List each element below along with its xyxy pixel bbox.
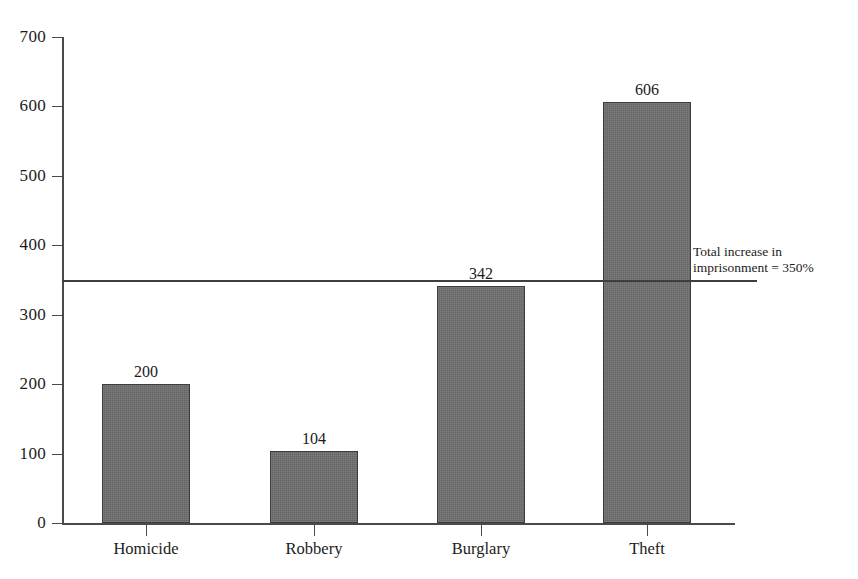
x-axis-line: [62, 523, 735, 525]
y-tick-label: 600: [0, 97, 46, 114]
bar-value-label: 606: [587, 82, 707, 98]
y-tick-label: 700: [0, 28, 46, 45]
y-tick-mark: [52, 245, 62, 246]
y-tick-mark: [52, 106, 62, 107]
bar-value-label: 200: [86, 364, 206, 380]
y-tick-label: 0: [0, 514, 46, 531]
reference-line-total-increase: [62, 280, 757, 282]
y-tick-label: 100: [0, 445, 46, 462]
bar-value-label: 104: [254, 431, 374, 447]
x-tick-mark: [146, 525, 147, 536]
y-tick-mark: [52, 523, 62, 524]
x-tick-mark: [647, 525, 648, 536]
y-tick-label: 200: [0, 375, 46, 392]
reference-line-annotation: Total increase in imprisonment = 350%: [693, 244, 858, 277]
bar-burglary: [437, 286, 525, 523]
plot-area: 0100200300400500600700 200104342606 Homi…: [0, 0, 858, 579]
x-tick-label-theft: Theft: [567, 540, 727, 558]
x-tick-label-homicide: Homicide: [66, 540, 226, 558]
annotation-line-2: imprisonment = 350%: [693, 260, 858, 276]
x-tick-label-burglary: Burglary: [401, 540, 561, 558]
bar-theft: [603, 102, 691, 523]
annotation-line-1: Total increase in: [693, 244, 858, 260]
bar-robbery: [270, 451, 358, 523]
y-tick-label: 300: [0, 306, 46, 323]
x-tick-mark: [481, 525, 482, 536]
y-tick-mark: [52, 176, 62, 177]
y-tick-mark: [52, 315, 62, 316]
y-tick-label: 400: [0, 236, 46, 253]
x-tick-label-robbery: Robbery: [234, 540, 394, 558]
bar-chart: 0100200300400500600700 200104342606 Homi…: [0, 0, 858, 579]
y-tick-mark: [52, 384, 62, 385]
y-tick-mark: [52, 454, 62, 455]
y-tick-label: 500: [0, 167, 46, 184]
x-tick-mark: [314, 525, 315, 536]
bar-homicide: [102, 384, 190, 523]
y-tick-mark: [52, 37, 62, 38]
